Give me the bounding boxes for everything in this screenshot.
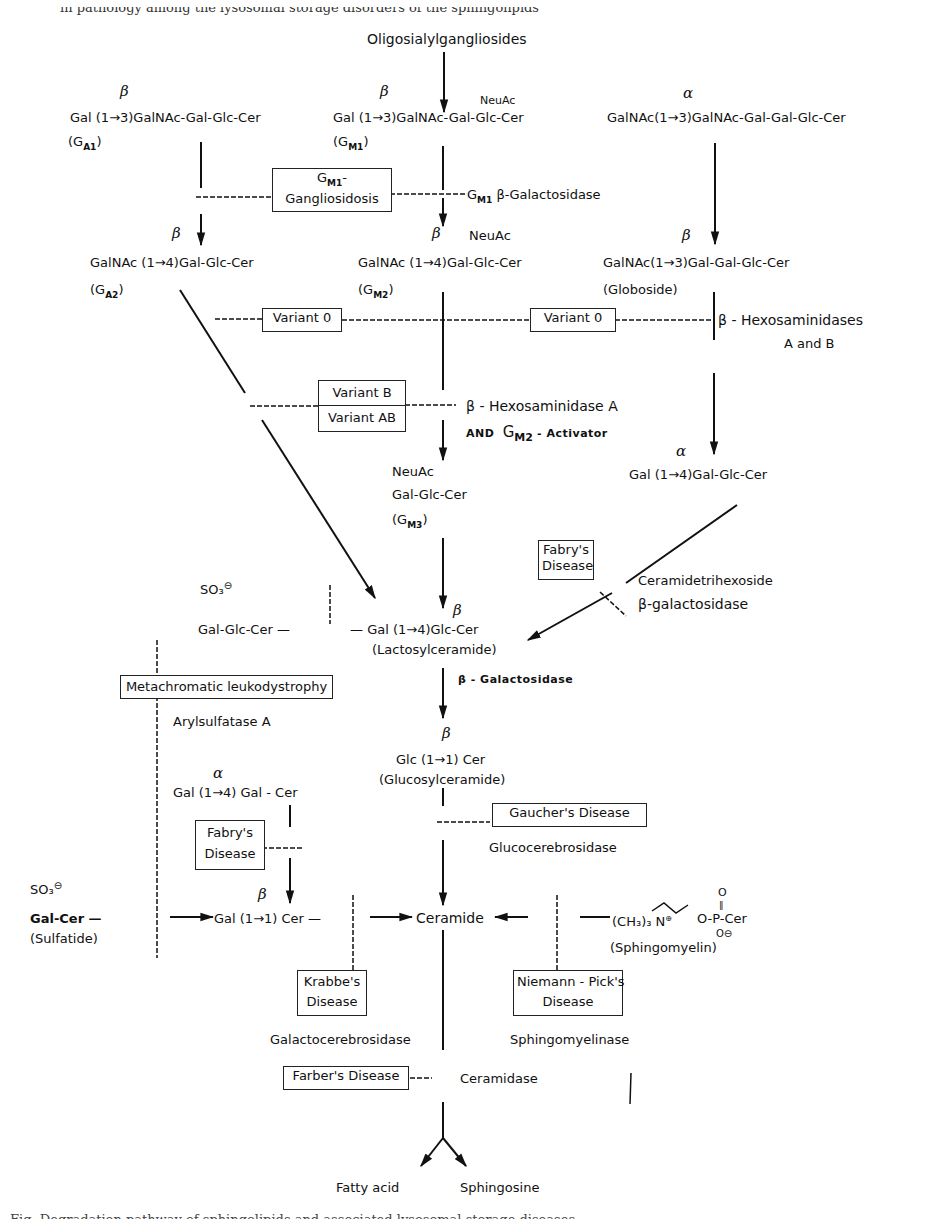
node-sulfatide-formula: Gal-Cer — [30,911,102,926]
anomer-alpha: α [683,86,693,101]
node-sphingomyelin-neg-oxygen: O⊖ [716,926,732,941]
anomer-beta: β [432,226,441,241]
node-glucosylceramide-name: (Glucosylceramide) [379,772,505,787]
disease-fabry-upper: Fabry'sDisease [538,540,594,580]
disease-metachromatic-leukodystrophy: Metachromatic leukodystrophy [120,675,333,699]
node-glucosylceramide-formula: Glc (1→1) Cer [396,752,485,767]
anomer-beta: β [120,84,129,99]
node-globoside-formula: GalNAc(1→3)Gal-Gal-Glc-Cer [603,255,789,270]
node-gm2-branch: NeuAc [469,228,511,243]
anomer-alpha: α [676,444,686,459]
anomer-beta: β [453,603,462,618]
node-ceramide: Ceramide [416,911,484,926]
disease-variant-b: Variant B [319,381,405,406]
node-gm1-name: (GM1) [333,134,368,155]
node-gm3-branch: NeuAc [392,464,434,479]
anomer-beta: β [258,887,267,902]
enzyme-hexosaminidase-a: β - Hexosaminidase A [466,399,618,414]
node-ga1-name: (GA1) [68,134,101,155]
node-ga1-formula: Gal (1→3)GalNAc-Gal-Glc-Cer [70,110,260,125]
anomer-alpha: α [213,766,223,781]
node-gm3-name: (GM3) [392,512,427,533]
enzyme-hexosaminidases-ab-line1: β - Hexosaminidases [718,313,863,328]
enzyme-arylsulfatase-a: Arylsulfatase A [173,714,271,729]
enzyme-glucocerebrosidase: Glucocerebrosidase [489,840,617,855]
node-ga2-formula: GalNAc (1→4)Gal-Glc-Cer [90,255,254,270]
enzyme-ceramidetrihexoside-line2: β-galactosidase [638,597,748,612]
node-sulfo-lactosyl-group: SO₃⊖ [200,578,232,597]
node-sulfatide-name: (Sulfatide) [30,931,98,946]
enzyme-gm1-beta-galactosidase: GM1 β-Galactosidase [467,187,601,208]
disease-krabbe: Krabbe'sDisease [297,970,367,1016]
node-sphingomyelin-name: (Sphingomyelin) [610,940,717,955]
enzyme-gm2-activator: AND GM2 - Activator [466,425,608,445]
node-gm1-branch: NeuAc [480,93,515,108]
node-sulfo-lactosyl-formula: Gal-Glc-Cer — [198,622,290,637]
enzyme-ceramidase: Ceramidase [460,1071,538,1086]
anomer-beta: β [380,84,389,99]
disease-variant-0-left: Variant 0 [262,308,342,332]
anomer-beta: β [682,228,691,243]
node-sphingomyelin-formula: (CH₃)₃ N⊕ [612,911,672,929]
node-sphingosine: Sphingosine [460,1180,539,1195]
disease-farber: Farber's Disease [283,1066,409,1090]
disease-variant-ab: Variant AB [319,406,405,430]
node-oligosialylgangliosides: Oligosialylgangliosides [367,32,527,47]
enzyme-sphingomyelinase: Sphingomyelinase [510,1032,629,1047]
node-sulfatide-group: SO₃⊖ [30,878,62,897]
node-ceramide-trihexoside-formula: Gal (1→4)Gal-Glc-Cer [629,467,767,482]
node-globoside-name: (Globoside) [603,282,678,297]
disease-fabry-lower: Fabry'sDisease [195,820,265,870]
disease-variant-b-ab: Variant B Variant AB [318,380,406,432]
disease-gaucher: Gaucher's Disease [492,803,647,827]
node-fatty-acid: Fatty acid [336,1180,399,1195]
node-gm1-formula: Gal (1→3)GalNAc-Gal-Glc-Cer [333,110,523,125]
node-ga2-name: (GA2) [90,282,123,303]
node-lactosylceramide-formula: — Gal (1→4)Glc-Cer [350,622,478,637]
disease-gm1-gangliosidosis: GM1- Gangliosidosis [272,168,392,212]
disease-niemann-pick: Niemann - Pick'sDisease [513,970,623,1016]
node-digalactosylceramide-formula: Gal (1→4) Gal - Cer [173,785,298,800]
node-galactosylceramide-formula: Gal (1→1) Cer — [214,911,321,926]
enzyme-galactocerebrosidase: Galactocerebrosidase [270,1032,411,1047]
node-gm3-formula: Gal-Glc-Cer [392,487,467,502]
pathway-lines [0,0,943,1228]
anomer-beta: β [442,726,451,741]
disease-variant-0-right: Variant 0 [530,308,616,332]
anomer-beta: β [172,226,181,241]
node-sphingomyelin-tail: O-P-Cer [697,911,747,926]
node-gm2-formula: GalNAc (1→4)Gal-Glc-Cer [358,255,522,270]
node-globo-precursor-formula: GalNAc(1→3)GalNAc-Gal-Gal-Glc-Cer [607,110,846,125]
node-gm2-name: (GM2) [358,282,393,303]
enzyme-hexosaminidases-ab-line2: A and B [784,336,835,351]
enzyme-lactosyl-galactosidase: β - Galactosidase [458,672,573,687]
enzyme-ceramidetrihexoside-line1: Ceramidetrihexoside [638,573,773,588]
node-lactosylceramide-name: (Lactosylceramide) [372,642,497,657]
